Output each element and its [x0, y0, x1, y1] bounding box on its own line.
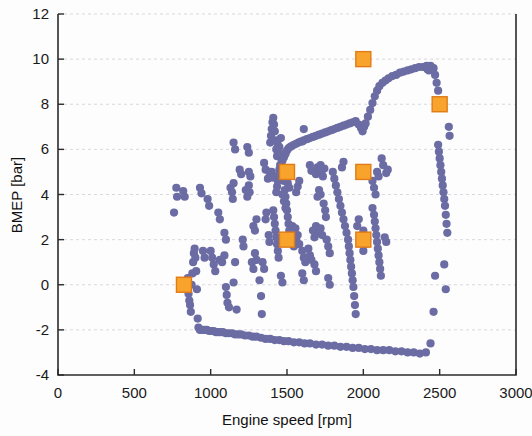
- data-point: [326, 281, 334, 289]
- data-point: [440, 260, 448, 268]
- data-point: [433, 79, 441, 87]
- data-point: [245, 149, 253, 157]
- data-point: [359, 247, 367, 255]
- data-point: [191, 245, 199, 253]
- data-point: [333, 188, 341, 196]
- data-point: [332, 181, 340, 189]
- highlight-marker: [176, 277, 191, 292]
- data-point: [214, 208, 222, 216]
- data-point: [285, 184, 293, 192]
- data-point: [208, 254, 216, 262]
- y-tick-label: 8: [41, 95, 49, 112]
- data-point: [323, 236, 331, 244]
- data-point: [225, 303, 233, 311]
- y-axis-title: BMEP [bar]: [8, 157, 25, 233]
- data-point: [249, 265, 257, 273]
- data-point: [194, 314, 202, 322]
- data-point: [335, 195, 343, 203]
- data-point: [442, 211, 450, 219]
- data-point: [426, 339, 434, 347]
- data-point: [304, 245, 312, 253]
- x-tick-label: 1500: [270, 384, 303, 401]
- data-point: [384, 166, 392, 174]
- data-point: [231, 258, 239, 266]
- data-point: [341, 222, 349, 230]
- data-point: [445, 123, 453, 131]
- data-point: [229, 139, 237, 147]
- data-point: [223, 291, 231, 299]
- y-axis-tick-labels: -4-2024681012: [32, 5, 49, 383]
- data-point: [260, 159, 268, 167]
- data-point: [278, 278, 286, 286]
- data-point: [339, 215, 347, 223]
- data-point: [204, 195, 212, 203]
- data-point: [422, 348, 430, 356]
- data-point: [222, 283, 230, 291]
- data-point: [265, 238, 273, 246]
- data-point: [352, 310, 360, 318]
- data-point: [319, 172, 327, 180]
- data-point: [200, 254, 208, 262]
- highlight-marker: [280, 164, 295, 179]
- data-point: [199, 247, 207, 255]
- data-point: [251, 249, 259, 257]
- data-point: [445, 132, 453, 140]
- data-point: [434, 87, 442, 95]
- data-point: [382, 238, 390, 246]
- data-point: [222, 236, 230, 244]
- data-point: [255, 276, 263, 284]
- data-point: [378, 154, 386, 162]
- data-point: [336, 202, 344, 210]
- data-point: [271, 127, 279, 135]
- data-point: [431, 272, 439, 280]
- data-point: [280, 197, 288, 205]
- data-point: [207, 247, 215, 255]
- data-point: [260, 265, 268, 273]
- data-point: [375, 172, 383, 180]
- data-point: [316, 224, 324, 232]
- y-tick-label: -2: [36, 321, 49, 338]
- y-tick-label: 6: [41, 140, 49, 157]
- data-point: [338, 208, 346, 216]
- data-point: [329, 168, 337, 176]
- data-point: [211, 267, 219, 275]
- data-point: [441, 202, 449, 210]
- data-point: [350, 292, 358, 300]
- x-tick-label: 1000: [194, 384, 227, 401]
- data-point: [300, 276, 308, 284]
- highlight-marker: [356, 52, 371, 67]
- data-point: [262, 208, 270, 216]
- data-point: [295, 177, 303, 185]
- data-point: [322, 213, 330, 221]
- data-point: [187, 308, 195, 316]
- data-point: [443, 229, 451, 237]
- data-point: [233, 305, 241, 313]
- data-point: [275, 254, 283, 262]
- data-point: [307, 167, 315, 175]
- data-point: [300, 125, 308, 133]
- data-point: [310, 260, 318, 268]
- x-tick-label: 500: [122, 384, 147, 401]
- data-point: [229, 195, 237, 203]
- data-point: [442, 220, 450, 228]
- x-axis-title: Engine speed [rpm]: [222, 411, 352, 428]
- data-point: [368, 204, 376, 212]
- data-point: [442, 285, 450, 293]
- y-tick-label: 12: [32, 5, 49, 22]
- data-point: [349, 283, 357, 291]
- data-point: [181, 193, 189, 201]
- data-point: [370, 184, 378, 192]
- data-point: [377, 272, 385, 280]
- data-point: [268, 173, 276, 181]
- data-point: [220, 251, 228, 259]
- data-point: [252, 215, 260, 223]
- data-point: [312, 267, 320, 275]
- data-point: [298, 269, 306, 277]
- data-point: [246, 188, 254, 196]
- data-point: [193, 285, 201, 293]
- data-point: [355, 215, 363, 223]
- data-point: [231, 145, 239, 153]
- data-point: [351, 301, 359, 309]
- data-point: [170, 208, 178, 216]
- x-axis-tick-labels: 050010001500200025003000: [54, 384, 532, 401]
